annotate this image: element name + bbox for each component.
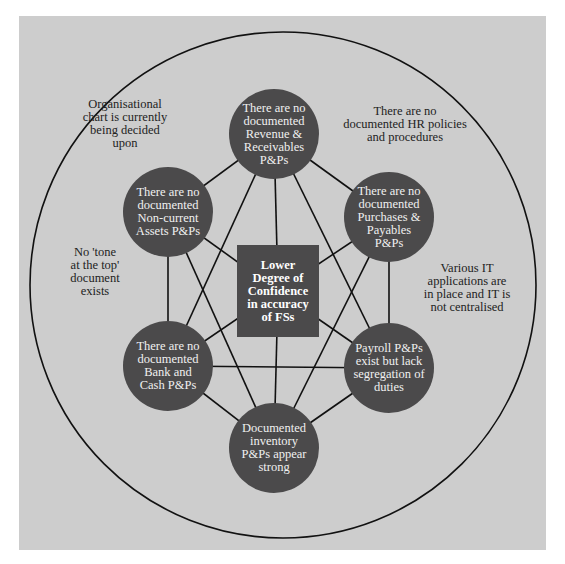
node-label-purchases: There are no documented Purchases & Paya… [344, 172, 434, 262]
node-label-revenue: There are no documented Revenue & Receiv… [229, 89, 319, 179]
note-tone-at-top: No 'tone at the top' document exists [55, 246, 135, 298]
note-hr-policies: There are no documented HR policies and … [340, 105, 470, 144]
node-label-payroll: Payroll P&Ps exist but lack segregation … [344, 323, 434, 413]
node-label-non-current: There are no documented Non-current Asse… [123, 167, 213, 257]
node-label-inventory: Documented inventory P&Ps appear strong [229, 403, 319, 493]
note-org-chart: Organisational chart is currently being … [60, 98, 190, 150]
center-box-label: Lower Degree of Confidence in accuracy o… [237, 245, 319, 337]
note-it-apps: Various IT applications are in place and… [412, 262, 522, 314]
node-label-bank-cash: There are no documented Bank and Cash P&… [123, 321, 213, 411]
